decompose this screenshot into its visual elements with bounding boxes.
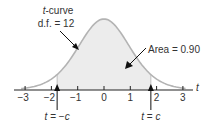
- area-label: Area = 0.90: [148, 44, 200, 55]
- df-label: d.f. = 12: [38, 18, 75, 29]
- x-tick-label: 1: [128, 92, 134, 103]
- x-tick-label: −2: [44, 92, 56, 103]
- equals: =: [144, 111, 155, 122]
- c-label: t = c: [141, 111, 160, 122]
- c-symbol: c: [155, 111, 160, 122]
- x-tick-label: −3: [17, 92, 29, 103]
- x-tick-label: −1: [70, 92, 82, 103]
- x-tick-label: 2: [154, 92, 160, 103]
- x-tick-label: 0: [101, 92, 107, 103]
- c-symbol: c: [65, 111, 70, 122]
- minus-c-label: t = −c: [45, 111, 70, 122]
- curve-pointer-arrow: [60, 31, 79, 50]
- curve-name-rest: -curve: [45, 5, 73, 16]
- equals-minus: = −: [47, 111, 64, 122]
- shaded-area-region: [57, 19, 151, 90]
- x-axis-label: t: [196, 82, 200, 93]
- curve-name-label: t-curve: [43, 5, 74, 16]
- chart-canvas: −3−2−10123 t t-curve d.f. = 12 Area = 0.…: [0, 0, 211, 126]
- x-tick-label: 3: [180, 92, 186, 103]
- t-distribution-figure: −3−2−10123 t t-curve d.f. = 12 Area = 0.…: [0, 0, 211, 126]
